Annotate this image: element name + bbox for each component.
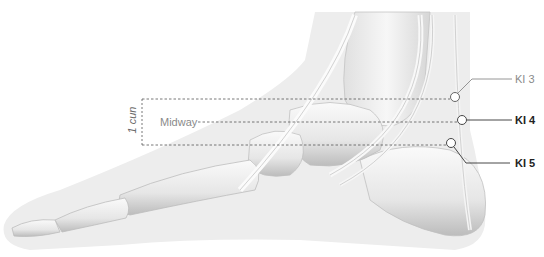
ki3-point[interactable] (451, 93, 460, 102)
midway-label: Midway (160, 116, 197, 128)
ki5-point[interactable] (447, 139, 456, 148)
one-cun-label: 1 cun (126, 107, 138, 134)
acupoint-diagram: 1 cun Midway KI 3 KI 4 KI 5 (0, 0, 544, 257)
ki4-point[interactable] (458, 116, 467, 125)
ki4-label: KI 4 (515, 114, 535, 126)
foot-illustration (0, 0, 544, 257)
ki5-label: KI 5 (515, 157, 535, 169)
ki3-label: KI 3 (515, 73, 535, 85)
